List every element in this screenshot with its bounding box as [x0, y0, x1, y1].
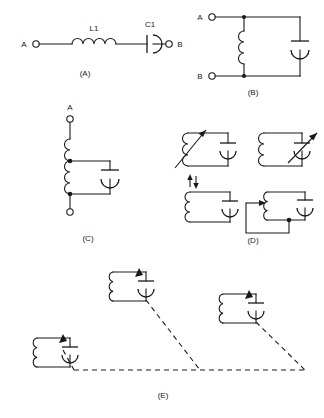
schematic-figure: A B L1 C1 (A) A B (B)	[0, 0, 324, 418]
schematic-canvas: A B L1 C1 (A) A B (B)	[0, 0, 324, 418]
panel-b-terminal-a-node	[209, 14, 215, 20]
d3-inductor	[185, 192, 190, 222]
capacitor-c1-label: C1	[145, 20, 156, 29]
panel-c: A (C)	[65, 103, 120, 243]
terminal-b-label: B	[177, 40, 182, 49]
panel-b-terminal-a-label: A	[197, 13, 203, 22]
panel-c-terminal-a-label: A	[67, 103, 73, 112]
d3-slug-arrowhead-down	[193, 183, 198, 189]
d4-tap-arrowhead	[259, 200, 266, 206]
caption-a: (A)	[80, 69, 91, 78]
gang-line-to-stage-3	[256, 322, 305, 370]
panel-d-variant-sliding-tap	[246, 192, 313, 233]
e3-inductor	[219, 294, 223, 323]
caption-d: (D)	[247, 236, 258, 245]
panel-e-stage-3	[219, 290, 264, 323]
caption-b: (B)	[248, 88, 259, 97]
terminal-a-label: A	[21, 40, 27, 49]
d4-inductor	[264, 192, 267, 220]
panel-e-stage-1	[33, 334, 78, 367]
panel-e: (E)	[33, 268, 305, 400]
panel-e-stage-2	[109, 268, 154, 301]
caption-e: (E)	[158, 391, 169, 400]
d3-slug-arrowhead-up	[187, 174, 192, 180]
terminal-b-node	[166, 41, 172, 47]
panel-b-inductor	[239, 31, 245, 64]
d2-inductor	[259, 133, 265, 166]
panel-a: A B L1 C1 (A)	[21, 20, 182, 78]
d4-tap-return-wire	[246, 203, 289, 233]
panel-c-inductor-upper	[65, 139, 71, 161]
panel-c-terminal-a-node	[67, 116, 73, 122]
panel-b-junction-bottom	[242, 74, 246, 78]
e2-inductor	[109, 272, 113, 301]
inductor-l1	[72, 39, 116, 45]
panel-d-variant-variable-capacitor	[259, 133, 318, 166]
gang-line-to-stage-2	[146, 300, 200, 370]
e1-inductor	[33, 338, 37, 367]
panel-b-terminal-b-label: B	[197, 72, 202, 81]
panel-d: (D)	[175, 130, 317, 245]
panel-b-terminal-b-node	[209, 73, 215, 79]
panel-b-junction-top	[242, 15, 246, 19]
panel-d-variant-variable-inductor	[175, 130, 236, 168]
inductor-l1-label: L1	[90, 24, 99, 33]
caption-c: (C)	[82, 234, 93, 243]
terminal-a-node	[33, 41, 39, 47]
panel-b: A B (B)	[197, 13, 309, 97]
panel-d-variant-permeability-tuned	[185, 174, 238, 222]
d1-inductor	[183, 133, 188, 166]
panel-c-terminal-bottom-node	[67, 209, 73, 215]
panel-c-inductor-lower	[65, 161, 71, 194]
